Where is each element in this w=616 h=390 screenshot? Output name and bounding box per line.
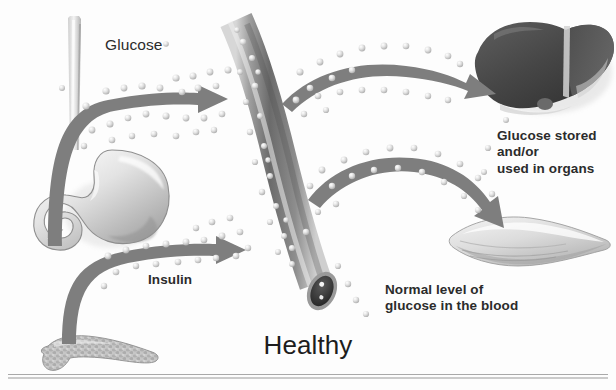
insulin-arrow[interactable] [62, 236, 246, 344]
muscle-organ [449, 217, 610, 266]
muscle-arrow[interactable] [308, 157, 504, 228]
label-insulin: Insulin [148, 272, 192, 288]
bottom-divider-line-1 [8, 374, 608, 375]
liver-organ [475, 22, 614, 115]
liver-arrow[interactable] [282, 65, 496, 112]
bottom-divider-line-2 [8, 377, 608, 379]
label-normal-glucose-level: Normal level of glucose in the blood [385, 282, 518, 315]
label-glucose: Glucose [105, 36, 163, 55]
figure-title: Healthy [0, 330, 616, 362]
blood-vessel [230, 20, 343, 315]
diagram-canvas: Glucose Insulin Glucose stored and/or us… [0, 0, 616, 390]
label-glucose-stored: Glucose stored and/or used in organs [497, 128, 597, 177]
